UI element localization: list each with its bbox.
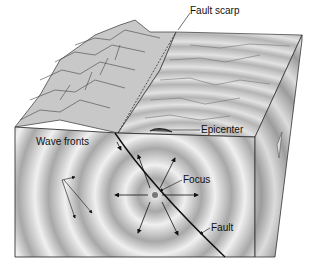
label-fault-scarp: Fault scarp	[190, 5, 239, 16]
earthquake-diagram: Fault scarp Epicenter Wave fronts Focus …	[0, 0, 314, 268]
label-focus: Focus	[183, 174, 210, 185]
focus-point	[152, 192, 158, 198]
label-fault: Fault	[211, 222, 233, 233]
block-diagram-graphic	[0, 0, 314, 268]
label-wave-fronts: Wave fronts	[36, 136, 89, 147]
label-epicenter: Epicenter	[201, 124, 243, 135]
